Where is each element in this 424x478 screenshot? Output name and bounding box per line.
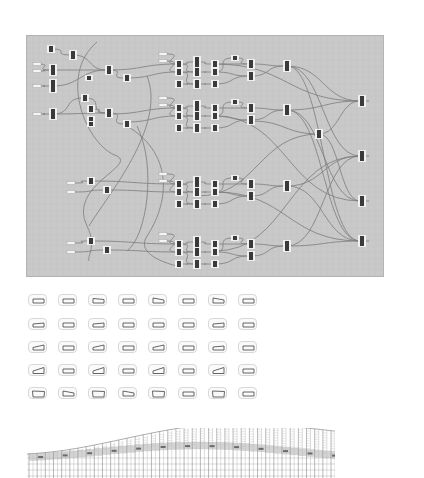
profile-thumbnail <box>118 364 137 376</box>
profile-thumbnail <box>58 341 77 353</box>
slider-node[interactable] <box>33 85 41 88</box>
profile-thumbnail <box>88 387 107 399</box>
slider-node[interactable] <box>33 113 41 116</box>
profile-thumbnail <box>118 387 137 399</box>
facade-elevation <box>27 428 335 478</box>
slider-node[interactable] <box>33 70 41 73</box>
slider-node[interactable] <box>159 53 167 56</box>
profile-thumbnail <box>28 341 47 353</box>
slider-node[interactable] <box>159 180 167 183</box>
slider-node[interactable] <box>159 233 167 236</box>
profile-thumbnail <box>178 364 197 376</box>
slider-node[interactable] <box>67 242 75 245</box>
elevation-drawing <box>27 428 335 478</box>
profile-thumbnail <box>178 341 197 353</box>
slider-node[interactable] <box>159 240 167 243</box>
profile-thumbnail <box>88 364 107 376</box>
profile-thumbnail <box>58 387 77 399</box>
profile-thumbnail <box>238 318 257 330</box>
slider-node[interactable] <box>67 191 75 194</box>
slider-node[interactable] <box>67 251 75 254</box>
profile-thumbnail <box>28 318 47 330</box>
graph-nodes <box>33 45 366 269</box>
profile-thumbnail <box>238 364 257 376</box>
profile-thumbnail <box>58 364 77 376</box>
profile-thumbnail <box>58 318 77 330</box>
profile-thumbnail <box>238 341 257 353</box>
profile-thumbnail <box>148 387 167 399</box>
profile-thumbnail <box>148 364 167 376</box>
profile-thumbnail-grid <box>26 290 266 405</box>
profile-thumbnail <box>148 294 167 306</box>
profile-thumbnail <box>118 341 137 353</box>
profile-thumbnail <box>148 341 167 353</box>
profile-thumbnail <box>88 294 107 306</box>
slider-node[interactable] <box>159 104 167 107</box>
profile-thumbnail <box>178 294 197 306</box>
profile-thumbnail <box>208 294 227 306</box>
profile-thumbnail <box>178 318 197 330</box>
profile-thumbnail <box>88 318 107 330</box>
slider-node[interactable] <box>33 63 41 66</box>
slider-node[interactable] <box>159 60 167 63</box>
slider-node[interactable] <box>159 173 167 176</box>
profile-thumbnail <box>58 294 77 306</box>
profile-thumbnail <box>118 294 137 306</box>
profile-thumbnail <box>208 364 227 376</box>
slider-node[interactable] <box>159 97 167 100</box>
node-graph-canvas <box>26 35 384 277</box>
profile-thumbnail <box>208 318 227 330</box>
profile-thumbnail <box>178 387 197 399</box>
profile-thumbnail <box>208 341 227 353</box>
profile-thumbnail <box>238 294 257 306</box>
node-graph <box>27 36 384 277</box>
slider-node[interactable] <box>67 182 75 185</box>
profile-thumbnail <box>88 341 107 353</box>
profile-thumbnail <box>148 318 167 330</box>
profile-thumbnail <box>118 318 137 330</box>
profile-thumbnail <box>238 387 257 399</box>
profile-thumbnail <box>28 364 47 376</box>
profile-thumbnail <box>28 387 47 399</box>
profile-thumbnail <box>208 387 227 399</box>
profile-thumbnail <box>28 294 47 306</box>
